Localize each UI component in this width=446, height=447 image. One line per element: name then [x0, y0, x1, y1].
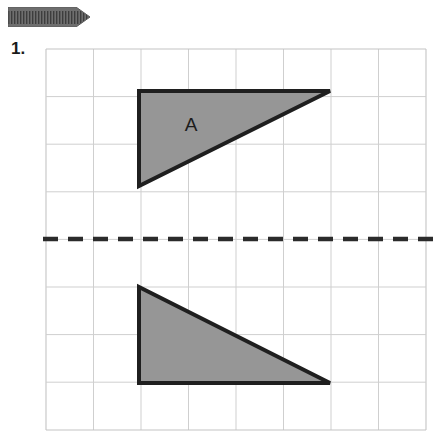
worksheet-page: 1.	[0, 0, 446, 447]
triangle-a-label: A	[185, 114, 198, 135]
reflection-figure: A	[0, 0, 446, 447]
triangle-a-shape	[139, 91, 330, 186]
figure-canvas: A	[0, 0, 446, 447]
